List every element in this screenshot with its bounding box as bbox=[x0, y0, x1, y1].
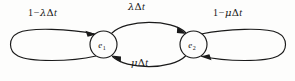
state-node-e2-label-subscript: 2 bbox=[193, 45, 196, 51]
self-left-time: t bbox=[54, 7, 57, 18]
state-node-e2-label-base: e bbox=[188, 40, 192, 50]
state-transition-diagram: e1 e2 1−λΔt λΔt 1−μΔt μΔt bbox=[0, 0, 295, 81]
self-loop-left bbox=[11, 29, 97, 60]
transition-arc-forward bbox=[112, 22, 187, 34]
self-left-delta: Δ bbox=[47, 7, 54, 18]
transition-arc-backward bbox=[112, 56, 186, 67]
transition-arc-backward-arrowhead bbox=[112, 56, 122, 63]
transition-label-forward: λΔt bbox=[128, 2, 145, 12]
transition-arc-forward-path bbox=[112, 22, 186, 33]
self-loop-right-path bbox=[201, 29, 286, 60]
self-right-rate-mu: μ bbox=[225, 7, 232, 18]
transition-label-self-left: 1−λΔt bbox=[28, 8, 57, 18]
state-node-e1-label-base: e bbox=[98, 40, 102, 50]
state-node-e2[interactable]: e2 bbox=[180, 31, 207, 58]
transition-label-backward: μΔt bbox=[131, 58, 148, 68]
backward-delta: Δ bbox=[138, 57, 145, 68]
forward-time: t bbox=[142, 1, 145, 12]
transition-arc-forward-arrowhead bbox=[177, 27, 187, 34]
self-loop-left-path bbox=[11, 29, 97, 60]
backward-rate-mu: μ bbox=[131, 57, 138, 68]
backward-time: t bbox=[145, 57, 148, 68]
state-node-e1[interactable]: e1 bbox=[90, 31, 117, 58]
state-node-e1-label-subscript: 1 bbox=[103, 45, 106, 51]
transition-label-self-right: 1−μΔt bbox=[213, 8, 242, 18]
self-loop-right bbox=[201, 29, 286, 60]
self-right-time: t bbox=[239, 7, 242, 18]
transition-arc-backward-path bbox=[113, 56, 186, 67]
forward-delta: Δ bbox=[135, 1, 142, 12]
